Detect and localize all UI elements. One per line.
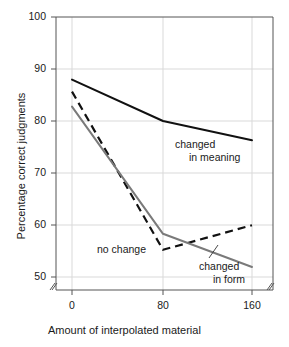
horizontal-gridlines	[56, 69, 273, 277]
series-changed-in-meaning-line	[72, 80, 252, 141]
x-tick-label-160: 160	[232, 300, 272, 311]
series-label-changed-in-form-line2: in form	[213, 273, 245, 286]
series-label-changed-in-form-line1: changed	[199, 260, 239, 272]
line-chart-figure: 100 90 80 70 60 50 0 80 160 Percentage c…	[0, 0, 289, 347]
series-label-changed-in-meaning-line1: changed	[175, 138, 215, 150]
y-tick-label-100: 100	[12, 11, 46, 22]
x-tick-label-80: 80	[143, 300, 183, 311]
series-label-no-change-line1: no change	[97, 243, 146, 255]
series-label-changed-in-form: changed in form	[199, 260, 245, 285]
y-tick-label-50: 50	[12, 271, 46, 282]
x-tick-marks	[72, 290, 252, 295]
x-axis-title: Amount of interpolated material	[48, 324, 201, 336]
series-label-changed-in-meaning: changed in meaning	[175, 138, 240, 163]
x-tick-label-0: 0	[52, 300, 92, 311]
y-tick-marks	[51, 17, 56, 277]
series-no-change-line	[72, 92, 252, 250]
y-axis-title: Percentage correct judgments	[15, 71, 27, 261]
series-label-no-change: no change	[97, 243, 146, 256]
series-label-changed-in-meaning-line2: in meaning	[189, 151, 240, 164]
